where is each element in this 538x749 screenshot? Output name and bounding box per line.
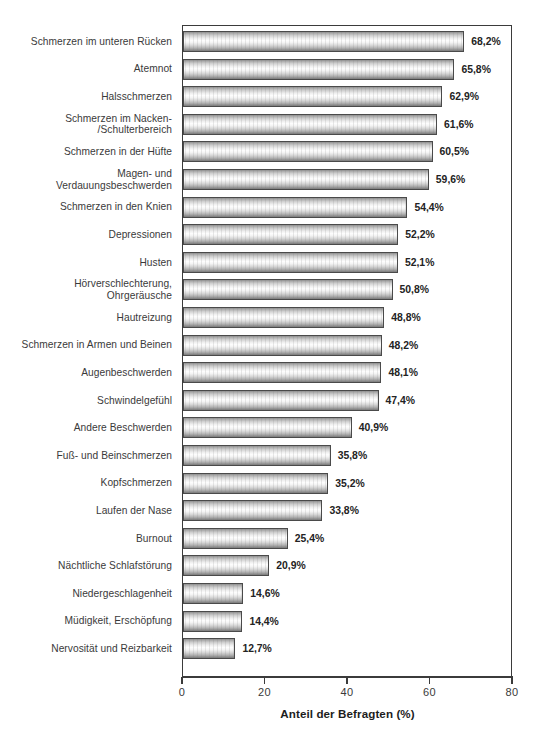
x-tick	[181, 677, 183, 684]
category-label: Nächtliche Schlafstörung	[0, 552, 172, 579]
bar-value-label: 62,9%	[449, 83, 478, 110]
bar-fill	[183, 279, 393, 300]
category-label: Husten	[0, 249, 172, 276]
bar-row: Schmerzen in Armen und Beinen48,2%	[0, 332, 538, 359]
bar-row: Schmerzen im Nacken- /Schulterbereich61,…	[0, 111, 538, 138]
bar-fill	[183, 445, 331, 466]
bar-fill	[183, 583, 243, 604]
bar-value-label: 35,2%	[335, 470, 364, 497]
bar	[183, 114, 437, 135]
bar-row: Burnout25,4%	[0, 525, 538, 552]
bar-row: Augenbeschwerden48,1%	[0, 359, 538, 386]
bar-value-label: 48,8%	[391, 304, 420, 331]
bar-row: Depressionen52,2%	[0, 221, 538, 248]
category-label: Hörverschlechterung, Ohrgeräusche	[0, 276, 172, 303]
bar-row: Hautreizung48,8%	[0, 304, 538, 331]
bar-fill	[183, 31, 464, 52]
category-label: Laufen der Nase	[0, 497, 172, 524]
bar	[183, 528, 288, 549]
bar-fill	[183, 307, 384, 328]
bar	[183, 31, 464, 52]
bar-row: Müdigkeit, Erschöpfung14,4%	[0, 608, 538, 635]
bar-fill	[183, 252, 398, 273]
bar-fill	[183, 197, 407, 218]
bar-row: Nervosität und Reizbarkeit12,7%	[0, 635, 538, 662]
bar	[183, 473, 328, 494]
bar	[183, 445, 331, 466]
bar-row: Schmerzen in den Knien54,4%	[0, 194, 538, 221]
x-tick	[511, 677, 513, 684]
category-label: Nervosität und Reizbarkeit	[0, 635, 172, 662]
bar	[183, 362, 381, 383]
bar	[183, 307, 384, 328]
bar-fill	[183, 86, 442, 107]
bar	[183, 224, 398, 245]
category-label: Hautreizung	[0, 304, 172, 331]
bar-fill	[183, 528, 288, 549]
bar	[183, 500, 322, 521]
category-label: Schmerzen in Armen und Beinen	[0, 332, 172, 359]
bar-fill	[183, 417, 352, 438]
x-tick	[264, 677, 266, 684]
x-tick-label: 20	[258, 686, 271, 698]
category-label: Niedergeschlagenheit	[0, 580, 172, 607]
category-label: Schmerzen im unteren Rücken	[0, 28, 172, 55]
category-label: Magen- und Verdauungsbeschwerden	[0, 166, 172, 193]
bar-value-label: 47,4%	[386, 387, 415, 414]
bar	[183, 611, 242, 632]
bar-row: Niedergeschlagenheit14,6%	[0, 580, 538, 607]
bar-value-label: 20,9%	[276, 552, 305, 579]
category-label: Andere Beschwerden	[0, 414, 172, 441]
bar-value-label: 65,8%	[461, 56, 490, 83]
bar	[183, 335, 382, 356]
bar-row: Nächtliche Schlafstörung20,9%	[0, 552, 538, 579]
category-label: Fuß- und Beinschmerzen	[0, 442, 172, 469]
bar-row: Halsschmerzen62,9%	[0, 83, 538, 110]
bar-row: Schmerzen im unteren Rücken68,2%	[0, 28, 538, 55]
bar-fill	[183, 473, 328, 494]
bar	[183, 583, 243, 604]
category-label: Halsschmerzen	[0, 83, 172, 110]
bar-row: Schwindelgefühl47,4%	[0, 387, 538, 414]
bar-row: Schmerzen in der Hüfte60,5%	[0, 138, 538, 165]
category-label: Schmerzen im Nacken- /Schulterbereich	[0, 111, 172, 138]
bar-row: Fuß- und Beinschmerzen35,8%	[0, 442, 538, 469]
bar-row: Atemnot65,8%	[0, 56, 538, 83]
x-tick-label: 0	[179, 686, 185, 698]
bar-fill	[183, 500, 322, 521]
bar	[183, 141, 433, 162]
bar-row: Kopfschmerzen35,2%	[0, 470, 538, 497]
bar-fill	[183, 224, 398, 245]
bar-value-label: 54,4%	[414, 194, 443, 221]
bar	[183, 197, 407, 218]
bar	[183, 417, 352, 438]
bar-value-label: 35,8%	[338, 442, 367, 469]
category-label: Augenbeschwerden	[0, 359, 172, 386]
bar-fill	[183, 362, 381, 383]
bar-fill	[183, 611, 242, 632]
bar-row: Husten52,1%	[0, 249, 538, 276]
x-tick	[346, 677, 348, 684]
bar-fill	[183, 169, 429, 190]
bar	[183, 169, 429, 190]
bar-fill	[183, 638, 235, 659]
category-label: Kopfschmerzen	[0, 470, 172, 497]
category-label: Müdigkeit, Erschöpfung	[0, 608, 172, 635]
bar-row: Andere Beschwerden40,9%	[0, 414, 538, 441]
bar-value-label: 25,4%	[295, 525, 324, 552]
bar-value-label: 68,2%	[471, 28, 500, 55]
bar-value-label: 50,8%	[400, 276, 429, 303]
bar-row: Hörverschlechterung, Ohrgeräusche50,8%	[0, 276, 538, 303]
bar-fill	[183, 555, 269, 576]
category-label: Schmerzen in der Hüfte	[0, 138, 172, 165]
bar-chart: Schmerzen im unteren Rücken68,2%Atemnot6…	[0, 0, 538, 749]
bar-row: Laufen der Nase33,8%	[0, 497, 538, 524]
x-tick-label: 40	[341, 686, 354, 698]
x-axis-title: Anteil der Befragten (%)	[182, 707, 513, 720]
bar-fill	[183, 59, 454, 80]
bar	[183, 59, 454, 80]
category-label: Schwindelgefühl	[0, 387, 172, 414]
bar-value-label: 14,4%	[249, 608, 278, 635]
bar	[183, 390, 379, 411]
bar-value-label: 40,9%	[359, 414, 388, 441]
